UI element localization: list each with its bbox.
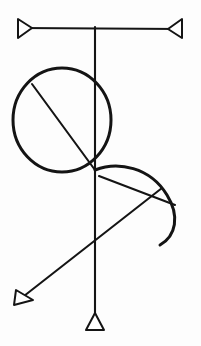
- circle-chord-line: [32, 84, 95, 170]
- bottom-arrow-icon: [86, 313, 104, 330]
- circle-shape: [13, 68, 111, 172]
- horizontal-axis-line: [20, 28, 180, 29]
- left-arrow-icon: [18, 19, 32, 38]
- sketch-canvas: Geometric line sketch A circle and an ar…: [0, 0, 201, 346]
- geometric-figure: [0, 0, 201, 346]
- diagonal-axis-line: [24, 188, 162, 296]
- right-arrow-icon: [168, 19, 182, 38]
